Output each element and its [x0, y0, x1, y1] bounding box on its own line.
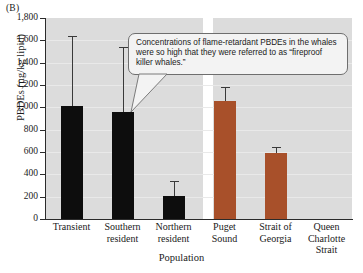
gridline	[46, 197, 352, 198]
y-axis-tick-label: 800	[0, 125, 38, 135]
bar-southern-resident	[112, 112, 134, 219]
y-axis-tick	[40, 197, 45, 198]
y-axis-tick-label: 1,000	[0, 102, 38, 112]
y-axis-tick	[40, 63, 45, 64]
y-axis-tick-label: 400	[0, 169, 38, 179]
error-bar-cap	[272, 147, 281, 148]
y-axis-line	[45, 18, 46, 220]
y-axis-tick-label: 1,800	[0, 13, 38, 23]
error-bar-line	[123, 47, 124, 112]
error-bar-cap	[119, 47, 128, 48]
y-axis-tick	[40, 18, 45, 19]
y-axis-tick	[40, 85, 45, 86]
y-axis-tick-labels: 1,8001,6001,4001,2001,0008006004002000	[0, 0, 38, 273]
y-axis-tick	[40, 40, 45, 41]
figure-panel-b: (B) PBDEs (µg/kg lipid) 1,8001,6001,4001…	[0, 0, 363, 273]
error-bar-line	[174, 181, 175, 196]
y-axis-tick	[40, 152, 45, 153]
gridline	[46, 152, 352, 153]
gridline	[46, 130, 352, 131]
y-axis-tick-label: 1,400	[0, 58, 38, 68]
error-bar-cap	[170, 181, 179, 182]
x-axis-line	[45, 219, 353, 220]
y-axis-tick	[40, 130, 45, 131]
annotation-callout: Concentrations of flame-retardant PBDEs …	[128, 33, 348, 75]
annotation-callout-tail	[131, 74, 171, 114]
error-bar-line	[72, 36, 73, 106]
y-axis-tick-label: 600	[0, 147, 38, 157]
gridline	[46, 174, 352, 175]
error-bar-line	[225, 87, 226, 102]
error-bar-cap	[221, 87, 230, 88]
y-axis-tick	[40, 174, 45, 175]
y-axis-tick	[40, 219, 45, 220]
gridline	[46, 85, 352, 86]
bar-transient	[61, 106, 83, 219]
y-axis-tick-label: 0	[0, 214, 38, 224]
bar-northern-resident	[163, 196, 185, 219]
y-axis-tick	[40, 107, 45, 108]
x-axis-category-label: Queen Charlotte Strait	[297, 221, 356, 256]
y-axis-tick-label: 1,600	[0, 35, 38, 45]
bar-strait-of-georgia	[265, 153, 287, 219]
error-bar-cap	[68, 36, 77, 37]
y-axis-tick-label: 1,200	[0, 80, 38, 90]
bar-puget-sound	[214, 101, 236, 219]
gridline	[46, 107, 352, 108]
y-axis-tick-label: 200	[0, 192, 38, 202]
